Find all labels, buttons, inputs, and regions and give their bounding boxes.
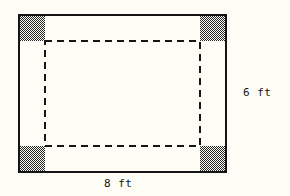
corner-square-top-left <box>19 15 45 41</box>
corner-square-bottom-right <box>200 146 226 172</box>
corner-square-bottom-left <box>19 146 45 172</box>
height-dimension-label: 6 ft <box>243 87 272 98</box>
corner-square-top-right <box>200 15 226 41</box>
width-dimension-label: 8 ft <box>104 178 133 189</box>
